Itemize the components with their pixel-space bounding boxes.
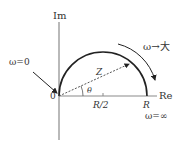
r-label: R <box>142 100 150 110</box>
theta-arc <box>81 86 83 96</box>
origin-label: 0 <box>50 91 56 101</box>
diagram-canvas: Im Re 0 R/2 R Z θ ω=0 ω=∞ ω→大 <box>0 0 188 146</box>
imag-axis-label: Im <box>53 10 67 21</box>
z-label: Z <box>95 67 103 77</box>
z-vector <box>59 64 129 96</box>
omega-increase-label: ω→大 <box>143 40 170 52</box>
half-r-label: R/2 <box>92 100 109 110</box>
theta-label: θ <box>87 86 92 95</box>
omega-zero-pointer <box>33 72 57 93</box>
omega-zero-label: ω=0 <box>9 57 30 67</box>
semicircle-locus <box>59 52 147 96</box>
impedance-locus-diagram: Im Re 0 R/2 R Z θ ω=0 ω=∞ ω→大 <box>0 0 188 146</box>
omega-inf-label: ω=∞ <box>145 111 167 121</box>
real-axis-label: Re <box>159 90 173 101</box>
